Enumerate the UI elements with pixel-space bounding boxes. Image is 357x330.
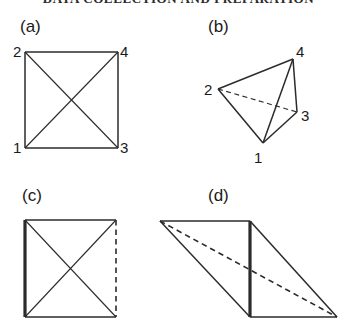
panel-b-vertex-label-1: 1: [254, 150, 262, 165]
panel-a-vertex-label-4: 4: [120, 44, 128, 59]
panel-label-c: (c): [22, 187, 42, 204]
panel-a-vertex-label-2: 2: [13, 44, 21, 59]
panel-label-b: (b): [208, 18, 229, 35]
panel-label-a: (a): [20, 18, 41, 35]
panel-a-vertex-label-1: 1: [13, 140, 21, 155]
edges-layer: [25, 52, 337, 317]
panel-b-vertex-label-2: 2: [204, 82, 212, 97]
panel-d-shape: [160, 221, 337, 317]
panel-b-edge-v4-v3: [293, 59, 297, 112]
panel-b-edge-v4-v1: [263, 59, 293, 143]
panel-d-edge-v4-v3: [250, 221, 337, 317]
panel-b-shape: [218, 59, 297, 143]
panel-b-vertex-label-3: 3: [301, 108, 309, 123]
panel-b-vertex-label-4: 4: [296, 44, 304, 59]
panel-a-vertex-label-3: 3: [120, 140, 128, 155]
panel-c-shape: [25, 220, 116, 317]
panel-b-edge-v2-v4: [218, 59, 293, 89]
panel-b-edge-v2-v1: [218, 89, 263, 143]
figure-page: DATA COLLECTION AND PREPARATION (a)2413(…: [0, 0, 357, 330]
panel-a-shape: [25, 52, 118, 148]
panel-label-d: (d): [208, 187, 229, 204]
panel-d-edge-v2-v1: [160, 221, 250, 317]
panel-b-edge-v2-v3: [218, 89, 297, 112]
